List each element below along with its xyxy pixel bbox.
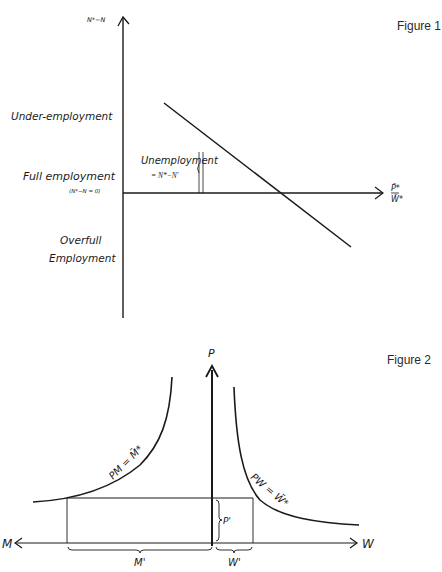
curve-pm [33,377,172,502]
region-full-employment-condition: (N*−N = 0) [69,188,100,194]
region-overfull-line1: Overfull [60,234,102,246]
unemployment-formula: = N*−N' [151,171,179,180]
m-prime-label: M' [134,557,145,568]
m-prime-bracket [68,547,212,553]
figure-1-line [164,103,351,247]
figure-2: Figure 2 P M W PM = M̄* PW = W̄* P' M' W… [2,347,431,568]
figure-1: Figure 1 N*−N P̄* W̄* Under-employment F… [11,16,441,318]
w-prime-bracket [216,547,252,553]
unemployment-label: Unemployment [141,155,219,166]
figure-1-y-axis-label: N*−N [87,16,106,24]
figure-2-p-label: P [208,347,215,360]
p-prime-label: P' [223,516,231,526]
w-prime-label: W' [228,557,241,568]
region-full-employment: Full employment [23,170,116,183]
figure-2-caption: Figure 2 [387,353,431,367]
figure-1-caption: Figure 1 [397,19,441,33]
region-overfull-line2: Employment [49,252,116,264]
region-under-employment: Under-employment [11,110,113,122]
figure-2-w-label: W [362,537,375,551]
figure-1-x-axis-label-denominator: W̄* [391,194,403,204]
figure-1-x-axis-label-numerator: P̄* [391,183,400,193]
figures-canvas: Figure 1 N*−N P̄* W̄* Under-employment F… [0,0,442,572]
figure-2-m-label: M [2,537,13,551]
p-prime-bracket [216,500,222,541]
curve-pw-label: PW = W̄* [249,470,291,508]
